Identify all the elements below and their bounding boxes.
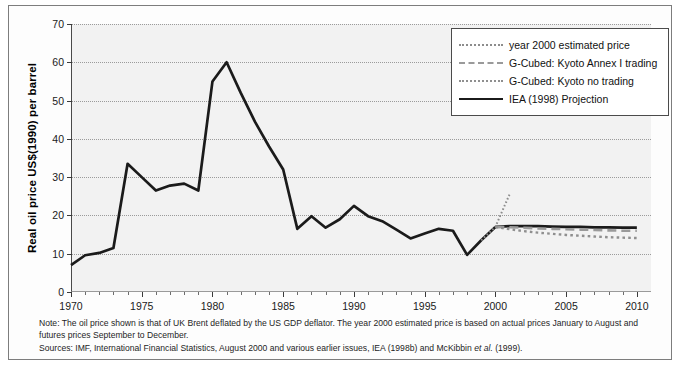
y-axis-title: Real oil price US$(1990) per barrel: [23, 24, 41, 292]
sources-prefix: Sources: IMF, International Financial St…: [39, 343, 474, 353]
x-tick-mark-minor: [552, 292, 553, 295]
legend-swatch-icon: [459, 39, 503, 51]
x-tick-mark-minor: [396, 292, 397, 295]
x-tick-mark-minor: [269, 292, 270, 295]
x-tick-label: 1970: [59, 301, 82, 312]
y-tick-label: 70: [52, 19, 64, 30]
figure-canvas: Real oil price US$(1990) per barrel 0102…: [0, 0, 681, 367]
y-tick-label: 20: [52, 210, 64, 221]
x-tick-mark-minor: [85, 292, 86, 295]
legend-item: year 2000 estimated price: [459, 36, 660, 54]
x-tick-mark-major: [566, 292, 567, 297]
y-axis-title-text: Real oil price US$(1990) per barrel: [26, 63, 38, 253]
x-tick-mark-major: [71, 292, 72, 297]
legend-label: year 2000 estimated price: [509, 40, 630, 51]
x-tick-mark-minor: [623, 292, 624, 295]
x-tick-mark-minor: [524, 292, 525, 295]
x-tick-mark-minor: [510, 292, 511, 295]
x-tick-mark-minor: [453, 292, 454, 295]
legend-item: G-Cubed: Kyoto Annex I trading: [459, 54, 660, 72]
note-text: Note: The oil price shown is that of UK …: [39, 318, 655, 341]
sources-italic: et al.: [474, 343, 493, 353]
x-tick-mark-minor: [580, 292, 581, 295]
series-line: [481, 194, 509, 240]
x-tick-mark-minor: [481, 292, 482, 295]
x-tick-label: 1985: [272, 301, 295, 312]
x-tick-label: 2005: [554, 301, 577, 312]
x-tick-mark-minor: [411, 292, 412, 295]
x-tick-mark-minor: [467, 292, 468, 295]
x-tick-mark-minor: [170, 292, 171, 295]
x-tick-mark-major: [637, 292, 638, 297]
chart-legend: year 2000 estimated priceG-Cubed: Kyoto …: [451, 28, 669, 116]
y-tick-label: 40: [52, 134, 64, 145]
y-tick-label: 0: [58, 287, 64, 298]
x-tick-mark-minor: [198, 292, 199, 295]
x-tick-mark-minor: [297, 292, 298, 295]
legend-label: IEA (1998) Projection: [509, 94, 608, 105]
legend-swatch-icon: [459, 93, 503, 105]
x-tick-mark-minor: [128, 292, 129, 295]
x-tick-mark-major: [425, 292, 426, 297]
legend-label: G-Cubed: Kyoto no trading: [509, 76, 634, 87]
sources-suffix: (1999).: [493, 343, 523, 353]
x-tick-mark-minor: [113, 292, 114, 295]
x-tick-mark-minor: [311, 292, 312, 295]
x-tick-mark-minor: [368, 292, 369, 295]
legend-swatch-icon: [459, 75, 503, 87]
x-tick-mark-major: [354, 292, 355, 297]
x-tick-mark-minor: [227, 292, 228, 295]
y-tick-label: 50: [52, 95, 64, 106]
x-tick-mark-major: [212, 292, 213, 297]
x-tick-label: 1980: [201, 301, 224, 312]
x-tick-label: 2000: [484, 301, 507, 312]
x-tick-mark-minor: [439, 292, 440, 295]
y-tick-label: 10: [52, 248, 64, 259]
legend-item: G-Cubed: Kyoto no trading: [459, 72, 660, 90]
x-tick-mark-major: [142, 292, 143, 297]
x-tick-mark-minor: [594, 292, 595, 295]
x-tick-label: 2010: [625, 301, 648, 312]
figure-frame: Real oil price US$(1990) per barrel 0102…: [8, 5, 672, 360]
x-tick-mark-minor: [156, 292, 157, 295]
x-tick-mark-minor: [382, 292, 383, 295]
x-tick-mark-minor: [255, 292, 256, 295]
legend-swatch-icon: [459, 57, 503, 69]
x-tick-mark-minor: [609, 292, 610, 295]
x-tick-label: 1990: [342, 301, 365, 312]
x-tick-label: 1975: [130, 301, 153, 312]
y-tick-label: 30: [52, 172, 64, 183]
y-tick-label: 60: [52, 57, 64, 68]
x-tick-mark-major: [283, 292, 284, 297]
legend-label: G-Cubed: Kyoto Annex I trading: [509, 58, 657, 69]
x-tick-mark-minor: [241, 292, 242, 295]
x-tick-mark-minor: [99, 292, 100, 295]
x-tick-mark-major: [495, 292, 496, 297]
x-tick-label: 1995: [413, 301, 436, 312]
figure-notes: Note: The oil price shown is that of UK …: [39, 318, 655, 357]
sources-text: Sources: IMF, International Financial St…: [39, 343, 655, 355]
series-line: [71, 62, 495, 265]
x-tick-mark-minor: [184, 292, 185, 295]
x-tick-mark-minor: [538, 292, 539, 295]
legend-item: IEA (1998) Projection: [459, 90, 660, 108]
x-tick-mark-minor: [340, 292, 341, 295]
x-tick-mark-minor: [326, 292, 327, 295]
